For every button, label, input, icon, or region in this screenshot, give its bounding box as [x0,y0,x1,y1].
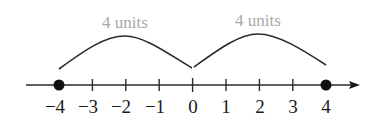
span-label-left: 4 units [102,13,148,32]
span-arc-left [59,36,192,69]
span-arc-right [194,34,326,67]
number-line-svg: 4 units 4 units −4 −3 −2 −1 0 1 2 3 [0,0,384,135]
point-positive-four [321,80,332,91]
point-negative-four [54,80,65,91]
span-label-right: 4 units [235,11,281,30]
tick-label: 0 [188,96,198,117]
tick-label: −3 [78,96,98,117]
tick-label: 3 [288,96,298,117]
tick-label: 2 [255,96,265,117]
tick-label: −2 [111,96,131,117]
tick-label: −4 [45,96,66,117]
tick-label: 4 [321,96,331,117]
tick-label: −1 [145,96,165,117]
tick-label: 1 [221,96,231,117]
tick-labels: −4 −3 −2 −1 0 1 2 3 4 [45,96,331,117]
number-line-diagram: 4 units 4 units −4 −3 −2 −1 0 1 2 3 [0,0,384,135]
